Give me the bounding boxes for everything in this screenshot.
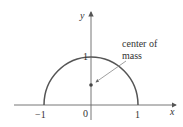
semicircle-figure: y x 1 0 −1 1 center of mass (0, 0, 183, 127)
tick-label-y1: 1 (83, 51, 88, 62)
y-axis-label: y (79, 10, 85, 21)
tick-label-x1: 1 (135, 109, 140, 120)
annotation-arrow (96, 61, 126, 82)
tick-label-origin: 0 (83, 108, 88, 119)
annotation-line2: mass (122, 50, 142, 61)
x-axis-label: x (169, 106, 175, 117)
center-of-mass-dot (89, 83, 93, 87)
figure-canvas: y x 1 0 −1 1 center of mass (0, 0, 183, 127)
tick-label-x-neg1: −1 (35, 109, 46, 120)
annotation-line1: center of (122, 38, 158, 49)
